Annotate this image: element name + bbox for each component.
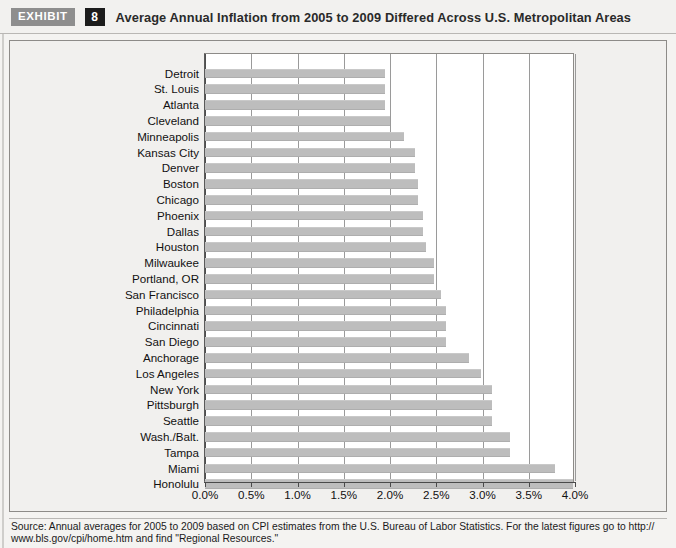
exhibit-page: EXHIBIT 8 Average Annual Inflation from … (0, 0, 676, 548)
bar (205, 163, 415, 173)
category-label-boston: Boston (163, 176, 199, 192)
x-tick (251, 482, 252, 487)
category-label-seattle: Seattle (163, 413, 199, 429)
bar (205, 227, 423, 237)
page-left-edge (2, 0, 4, 548)
category-label-detroit: Detroit (165, 66, 199, 82)
bar (205, 337, 446, 347)
category-label-los-angeles: Los Angeles (136, 366, 199, 382)
category-label-anchorage: Anchorage (143, 350, 199, 366)
bar (205, 448, 510, 458)
x-tick (390, 482, 391, 487)
category-label-new-york: New York (150, 382, 199, 398)
bar (205, 84, 385, 94)
category-label-chicago: Chicago (156, 192, 199, 208)
bar (205, 369, 481, 379)
bar (205, 179, 418, 189)
category-label-denver: Denver (162, 160, 199, 176)
bar-row: Denver (205, 160, 575, 176)
footer-divider (9, 518, 667, 519)
bar-row: Dallas (205, 224, 575, 240)
category-label-houston: Houston (156, 239, 199, 255)
x-tick-label-2.0%: 2.0% (377, 488, 403, 501)
bar-row: Phoenix (205, 208, 575, 224)
x-tick-label-0.5%: 0.5% (238, 488, 264, 501)
x-tick (575, 482, 576, 487)
x-tick-label-1.5%: 1.5% (331, 488, 357, 501)
category-label-minneapolis: Minneapolis (137, 129, 199, 145)
bar-row: Minneapolis (205, 129, 575, 145)
source-note-line-2: www.bls.gov/cpi/home.htm and find "Regio… (11, 533, 666, 545)
category-label-cincinnati: Cincinnati (148, 318, 199, 334)
header-divider (0, 33, 676, 34)
bar (205, 306, 446, 316)
bar-row: San Francisco (205, 287, 575, 303)
bar (205, 116, 390, 126)
bar (205, 258, 434, 268)
category-label-san-francisco: San Francisco (125, 287, 199, 303)
bar (205, 274, 434, 284)
x-tick (298, 482, 299, 487)
bar-row: Wash./Balt. (205, 429, 575, 445)
bar (205, 148, 415, 158)
x-tick-label-0.0%: 0.0% (192, 488, 218, 501)
bar-row: Atlanta (205, 97, 575, 113)
category-label-kansas-city: Kansas City (137, 145, 199, 161)
bar (205, 464, 555, 474)
category-label-wash-balt: Wash./Balt. (140, 429, 199, 445)
bar-row: Cincinnati (205, 318, 575, 334)
bar-row: Portland, OR (205, 271, 575, 287)
category-label-atlanta: Atlanta (163, 97, 199, 113)
bar (205, 100, 385, 110)
x-tick (483, 482, 484, 487)
x-tick (205, 482, 206, 487)
bar-row: Philadelphia (205, 303, 575, 319)
bar-row: Chicago (205, 192, 575, 208)
category-label-pittsburgh: Pittsburgh (147, 397, 199, 413)
bar (205, 400, 492, 410)
exhibit-number-badge: 8 (85, 8, 105, 26)
x-tick-label-1.0%: 1.0% (284, 488, 310, 501)
bar (205, 432, 510, 442)
x-tick-label-3.5%: 3.5% (516, 488, 542, 501)
bar-row: Pittsburgh (205, 397, 575, 413)
bar-row: Tampa (205, 445, 575, 461)
bar (205, 385, 492, 395)
exhibit-title: Average Annual Inflation from 2005 to 20… (116, 10, 631, 25)
bar-row: St. Louis (205, 81, 575, 97)
category-label-philadelphia: Philadelphia (136, 303, 199, 319)
bar-rows: DetroitSt. LouisAtlantaClevelandMinneapo… (205, 54, 573, 481)
x-tick-label-4.0%: 4.0% (562, 488, 588, 501)
bar-row: Los Angeles (205, 366, 575, 382)
category-label-cleveland: Cleveland (147, 113, 199, 129)
category-label-st-louis: St. Louis (154, 81, 199, 97)
bar (205, 195, 418, 205)
exhibit-tag: EXHIBIT (11, 8, 75, 26)
bar (205, 353, 469, 363)
bar-row: Miami (205, 461, 575, 477)
bar (205, 416, 492, 426)
plot-area: DetroitSt. LouisAtlantaClevelandMinneapo… (204, 53, 574, 482)
bar (205, 242, 426, 252)
x-tick (529, 482, 530, 487)
bar (205, 69, 385, 79)
bar-row: Kansas City (205, 145, 575, 161)
bar (205, 321, 446, 331)
source-note: Source: Annual averages for 2005 to 2009… (11, 521, 666, 546)
category-label-miami: Miami (168, 461, 199, 477)
x-tick-label-3.0%: 3.0% (469, 488, 495, 501)
bar-row: Cleveland (205, 113, 575, 129)
bar-row: Houston (205, 239, 575, 255)
bar-row: Boston (205, 176, 575, 192)
bar-row: Seattle (205, 413, 575, 429)
category-label-san-diego: San Diego (145, 334, 199, 350)
chart-frame: DetroitSt. LouisAtlantaClevelandMinneapo… (9, 40, 667, 512)
category-label-phoenix: Phoenix (157, 208, 199, 224)
bar-row: Milwaukee (205, 255, 575, 271)
category-label-milwaukee: Milwaukee (144, 255, 199, 271)
gridline-4.0% (575, 54, 576, 481)
bar-row: New York (205, 382, 575, 398)
bar-row: Detroit (205, 66, 575, 82)
source-note-line-1: Source: Annual averages for 2005 to 2009… (11, 521, 666, 533)
x-tick (436, 482, 437, 487)
